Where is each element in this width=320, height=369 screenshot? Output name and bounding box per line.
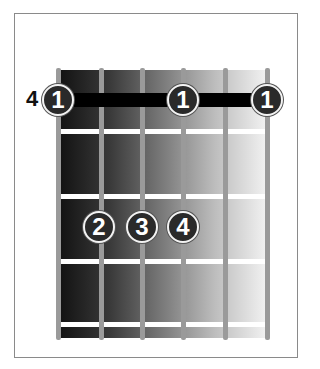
fretboard [58, 70, 267, 338]
string-5 [223, 68, 228, 340]
fret-line [60, 322, 265, 327]
string-3 [140, 68, 145, 340]
finger-dot: 3 [126, 211, 158, 243]
fret-line [60, 259, 265, 264]
fret-line [60, 194, 265, 199]
finger-dot: 2 [83, 211, 115, 243]
start-fret-label: 4 [26, 86, 38, 112]
string-2 [99, 68, 104, 340]
finger-dot: 1 [167, 84, 199, 116]
finger-dot: 1 [251, 84, 283, 116]
barre-bar [58, 93, 267, 107]
finger-dot: 1 [42, 84, 74, 116]
finger-dot: 4 [167, 211, 199, 243]
fret-line [60, 129, 265, 134]
